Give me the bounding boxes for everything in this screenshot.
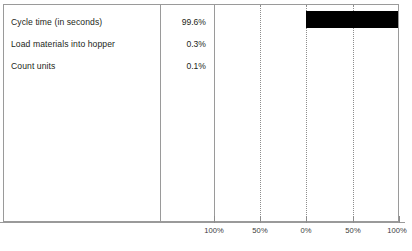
axis-label-3: 50% bbox=[345, 226, 360, 235]
tornado-chart: Cycle time (in seconds) Load materials i… bbox=[0, 0, 412, 251]
axis-line bbox=[0, 222, 405, 223]
value-column: 99.6% 0.3% 0.1% bbox=[161, 5, 214, 221]
task-label-column: Cycle time (in seconds) Load materials i… bbox=[4, 5, 159, 221]
gridline-0-center bbox=[306, 5, 307, 221]
axis-label-0: 100% bbox=[204, 226, 224, 235]
bar-cycle-time bbox=[306, 11, 398, 28]
row-label-2: Count units bbox=[11, 55, 55, 77]
gridline-50-right bbox=[353, 5, 354, 221]
axis-label-1: 50% bbox=[252, 226, 267, 235]
axis-tick-3 bbox=[353, 216, 354, 223]
row-value-0: 99.6% bbox=[182, 11, 206, 33]
axis-tick-0 bbox=[214, 216, 215, 223]
row-label-1: Load materials into hopper bbox=[11, 33, 115, 55]
axis-tick-4 bbox=[399, 216, 400, 223]
plot-area bbox=[215, 5, 398, 221]
axis-label-4: 100% bbox=[387, 226, 407, 235]
row-value-1: 0.3% bbox=[186, 33, 206, 55]
row-value-2: 0.1% bbox=[186, 55, 206, 77]
axis-tick-1 bbox=[260, 216, 261, 223]
axis-label-2: 0% bbox=[300, 226, 311, 235]
gridline-50-left bbox=[260, 5, 261, 221]
axis-tick-2 bbox=[306, 216, 307, 223]
row-label-0: Cycle time (in seconds) bbox=[11, 11, 102, 33]
